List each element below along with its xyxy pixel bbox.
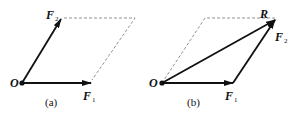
label-f1-a: F1 — [83, 90, 96, 104]
label-f2-b: F2 — [275, 31, 288, 45]
diagram-a — [19, 18, 135, 86]
dashed-parallelogram-a — [64, 18, 135, 80]
vector-f2-b — [233, 20, 275, 83]
label-origin-a: O — [10, 77, 19, 89]
label-f2-a: F2 — [46, 9, 59, 23]
origin-point-b — [159, 80, 164, 85]
label-f1-b: F1 — [225, 90, 238, 104]
parallelogram-diagrams — [0, 0, 293, 119]
vector-f2-a — [22, 19, 61, 83]
vector-r-b — [162, 20, 275, 83]
origin-point-a — [19, 80, 24, 85]
caption-b: (b) — [187, 97, 200, 108]
diagram-b — [159, 18, 275, 86]
label-r-b: R — [260, 8, 268, 20]
caption-a: (a) — [45, 97, 57, 108]
label-origin-b: O — [149, 77, 158, 89]
